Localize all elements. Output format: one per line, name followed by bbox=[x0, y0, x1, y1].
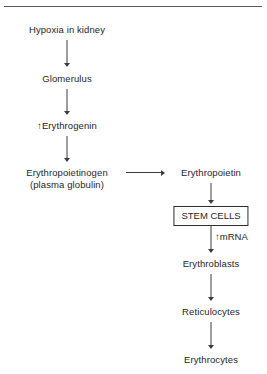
connector-reticulocytes-to-erythrocytes bbox=[211, 322, 212, 347]
connector-erythropoietinogen-to-erythropoietin bbox=[126, 172, 162, 173]
arrowhead-stem-cells-to-erythroblasts bbox=[208, 249, 214, 253]
node-stem-cells-box: STEM CELLS bbox=[173, 206, 248, 226]
flowchart-diagram: Hypoxia in kidney Glomerulus ↑Erythrogen… bbox=[0, 0, 267, 374]
connector-stem-cells-to-erythroblasts bbox=[211, 226, 212, 251]
node-label: Erythroblasts bbox=[183, 258, 240, 269]
connector-hypoxia-to-glomerulus bbox=[67, 40, 68, 65]
arrowhead-erythroblasts-to-reticulocytes bbox=[208, 297, 214, 301]
node-erythrogenin: ↑Erythrogenin bbox=[37, 120, 97, 132]
arrowhead-reticulocytes-to-erythrocytes bbox=[208, 345, 214, 349]
node-label: Erythropoietinogen bbox=[26, 167, 108, 178]
edge-label-mrna: ↑mRNA bbox=[215, 231, 248, 242]
node-glomerulus: Glomerulus bbox=[42, 73, 92, 85]
node-label: ↑Erythrogenin bbox=[37, 120, 97, 131]
node-erythropoietinogen: Erythropoietinogen (plasma globulin) bbox=[26, 167, 108, 190]
node-erythroblasts: Erythroblasts bbox=[183, 258, 240, 270]
node-label: Hypoxia in kidney bbox=[29, 24, 105, 35]
node-label: Erythrocytes bbox=[184, 354, 238, 365]
arrowhead-erythrogenin-to-erythropoietinogen bbox=[64, 158, 70, 162]
arrowhead-erythropoietinogen-to-erythropoietin bbox=[161, 170, 165, 176]
node-hypoxia-in-kidney: Hypoxia in kidney bbox=[29, 24, 105, 36]
node-sublabel: (plasma globulin) bbox=[26, 179, 108, 191]
node-label: Reticulocytes bbox=[182, 306, 240, 317]
node-erythrocytes: Erythrocytes bbox=[184, 354, 238, 366]
node-reticulocytes: Reticulocytes bbox=[182, 306, 240, 318]
connector-glomerulus-to-erythrogenin bbox=[67, 89, 68, 113]
node-label: Glomerulus bbox=[42, 73, 92, 84]
arrowhead-erythropoietin-to-stem-cells bbox=[208, 200, 214, 204]
connector-erythroblasts-to-reticulocytes bbox=[211, 274, 212, 299]
arrowhead-glomerulus-to-erythrogenin bbox=[64, 111, 70, 115]
node-erythropoietin: Erythropoietin bbox=[181, 167, 241, 179]
arrowhead-hypoxia-to-glomerulus bbox=[64, 63, 70, 67]
node-label: Erythropoietin bbox=[181, 167, 241, 178]
connector-erythrogenin-to-erythropoietinogen bbox=[67, 136, 68, 160]
node-label: STEM CELLS bbox=[181, 210, 240, 221]
top-divider-rule bbox=[4, 6, 262, 7]
